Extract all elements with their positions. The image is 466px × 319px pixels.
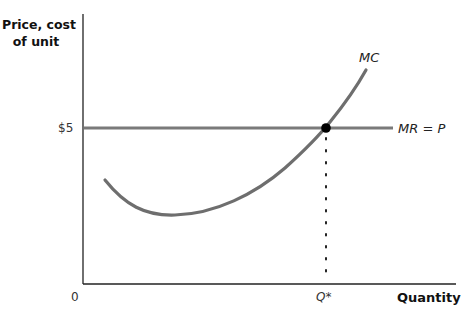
x-tick-q-star: Q* <box>316 290 331 304</box>
y-axis-label-line2: of unit <box>2 33 70 50</box>
y-axis-label-line1: Price, cost <box>2 16 70 33</box>
x-axis-label: Quantity <box>397 290 461 305</box>
y-axis-label: Price, cost of unit <box>2 16 70 50</box>
mc-curve <box>105 70 366 215</box>
origin-label: 0 <box>71 290 79 304</box>
mc-curve-label: MC <box>359 50 379 65</box>
mr-line-label: MR = P <box>398 121 445 136</box>
optimal-point <box>321 123 331 133</box>
y-tick-price: $5 <box>58 121 73 135</box>
profit-maximization-chart: Price, cost of unit $5 0 Q* Quantity MC … <box>0 0 466 319</box>
